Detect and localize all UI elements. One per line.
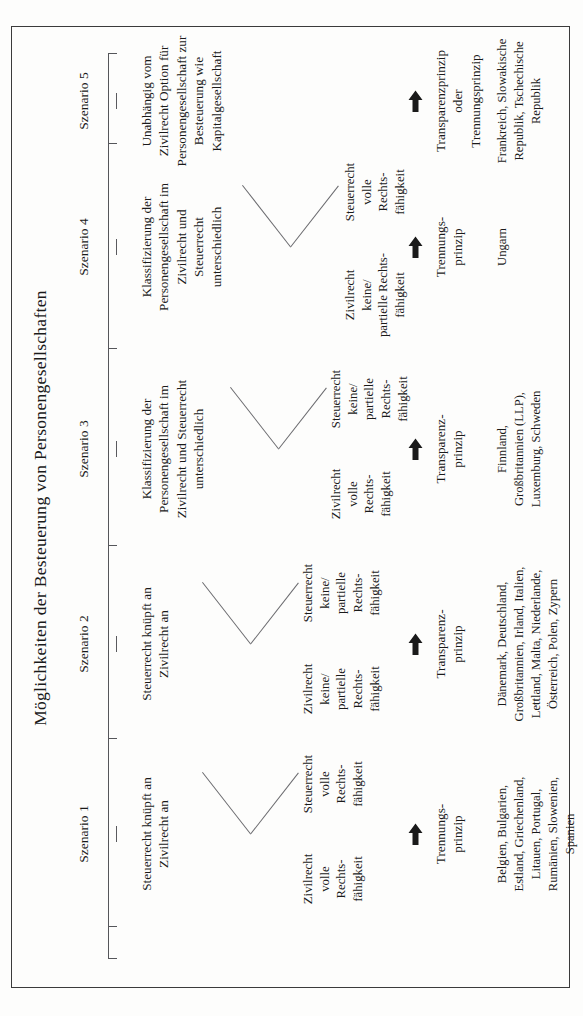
axis-tick-s1	[108, 926, 117, 927]
condition-civil-s2: Zivilrecht keine/ partielle Rechts- fähi…	[300, 639, 383, 739]
page-title: Möglichkeiten der Besteuerung von Person…	[12, 27, 68, 989]
condition-tax-s4: Steuerrecht volle Rechts- fähigkeit	[342, 142, 409, 242]
principle-s5: Transparenzprinzip oder Trennungsprinzip	[432, 6, 484, 196]
condition-civil-s3: Zivilrecht volle Rechts- fähigkeit	[328, 444, 395, 544]
condition-tax-s3: Steuerrecht keine/ partielle Rechts- fäh…	[328, 349, 411, 449]
scenario-description-s1: Steuerrecht knüpft an Zivilrecht an	[138, 729, 173, 939]
axis-dash-s3	[116, 441, 117, 457]
axis-label-s1: Szenario 1	[76, 805, 92, 862]
figure-frame: Möglichkeiten der Besteuerung von Person…	[11, 26, 570, 988]
axis-dash-s2	[116, 636, 117, 652]
right-arrow-icon-s3	[408, 438, 423, 460]
axis-dash-s5	[116, 93, 117, 109]
condition-tax-s2: Steuerrecht keine/ partielle Rechts- fäh…	[300, 543, 383, 643]
axis-tick-start	[108, 958, 117, 959]
country-list-s5: Frankreich, Slowakische Republik, Tschec…	[494, 0, 545, 226]
condition-tax-s1: Steuerrecht volle Rechts- fähigkeit	[300, 734, 367, 834]
right-arrow-icon-s5	[408, 90, 423, 112]
right-arrow-icon-s1	[408, 823, 423, 845]
scenario-description-s5: Unabhängig vom Zivilrecht Option für Per…	[138, 1, 225, 201]
right-arrow-icon-s4	[408, 236, 423, 258]
principle-s2: Transparenz- prinzip	[432, 559, 467, 729]
rotated-diagram-stage: Möglichkeiten der Besteuerung von Person…	[12, 27, 571, 989]
scenario-description-s3: Klassifizierung der Personengesellschaft…	[138, 334, 208, 564]
principle-s1: Trennungs- prinzip	[432, 749, 467, 919]
axis-dash-s1	[116, 826, 117, 842]
axis-tick-s5	[108, 143, 117, 144]
axis-label-s2: Szenario 2	[76, 615, 92, 672]
figure-page: Möglichkeiten der Besteuerung von Person…	[0, 0, 583, 1016]
principle-s3: Transparenz- prinzip	[432, 364, 467, 534]
axis-label-s5: Szenario 5	[76, 72, 92, 129]
country-list-s3: Finnland, Großbritannien (LLP), Luxembur…	[494, 324, 545, 574]
condition-civil-s4: Zivilrecht keine/ partielle Rechts- fähi…	[342, 239, 409, 351]
right-arrow-icon-s2	[408, 633, 423, 655]
axis-label-s3: Szenario 3	[76, 420, 92, 477]
axis-tick-s3	[108, 545, 117, 546]
axis-tick-end	[108, 53, 117, 54]
scenario-axis-line	[108, 53, 109, 959]
axis-label-s4: Szenario 4	[76, 218, 92, 275]
axis-tick-s2	[108, 738, 117, 739]
scenario-description-s2: Steuerrecht knüpft an Zivilrecht an	[138, 539, 173, 749]
axis-dash-s4	[116, 239, 117, 255]
condition-civil-s1: Zivilrecht volle Rechts- fähigkeit	[300, 829, 367, 929]
axis-tick-s4	[108, 348, 117, 349]
